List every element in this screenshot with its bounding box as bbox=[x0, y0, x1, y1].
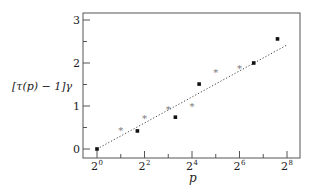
scatter-chart: 20222426280123 ****** [τ(p) − 1]γ p bbox=[0, 0, 315, 195]
x-tick-label: 26 bbox=[234, 159, 247, 173]
data-points: ****** bbox=[95, 37, 279, 151]
y-tick-label: 3 bbox=[73, 14, 80, 27]
fit-line bbox=[97, 45, 287, 149]
star-marker: * bbox=[213, 67, 218, 78]
dot-marker bbox=[136, 129, 140, 133]
x-tick-label: 28 bbox=[281, 159, 293, 173]
star-marker: * bbox=[166, 104, 171, 115]
y-tick-label: 2 bbox=[73, 57, 80, 70]
dot-marker bbox=[95, 147, 99, 151]
y-tick-label: 1 bbox=[73, 100, 80, 113]
axis-ticks bbox=[83, 20, 287, 158]
plot-frame bbox=[83, 13, 300, 158]
axis-tick-labels: 20222426280123 bbox=[73, 14, 293, 173]
x-axis-label: p bbox=[189, 171, 197, 185]
star-marker: * bbox=[142, 113, 147, 124]
dot-marker bbox=[276, 37, 280, 41]
star-marker: * bbox=[118, 125, 123, 136]
star-marker: * bbox=[190, 101, 195, 112]
y-tick-label: 0 bbox=[73, 143, 80, 156]
dot-marker bbox=[252, 61, 256, 65]
x-tick-label: 22 bbox=[139, 159, 151, 173]
star-marker: * bbox=[237, 63, 242, 74]
x-tick-label: 20 bbox=[91, 159, 103, 173]
dot-marker bbox=[197, 82, 201, 86]
y-axis-label: [τ(p) − 1]γ bbox=[12, 80, 73, 93]
dot-marker bbox=[174, 115, 178, 119]
